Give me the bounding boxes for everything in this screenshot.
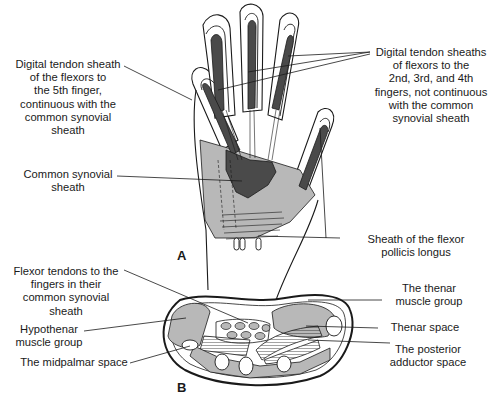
label-flexor-pollicis-longus-sheath: Sheath of the flexor pollicis longus [356, 233, 476, 259]
label-thenar-space: Thenar space [380, 321, 470, 334]
label-hypothenar-muscle-group: Hypothenar muscle group [10, 323, 88, 349]
label-common-synovial-sheath: Common synovial sheath [18, 168, 118, 194]
label-flexor-tendons: Flexor tendons to the fingers in their c… [6, 265, 126, 318]
label-midpalmar-space: The midpalmar space [14, 356, 134, 369]
label-digital-sheath-5th-finger: Digital tendon sheath of the flexors to … [8, 58, 128, 137]
panel-label-b: B [177, 380, 186, 395]
label-thenar-muscle-group: The thenar muscle group [384, 282, 474, 308]
panel-label-a: A [177, 248, 186, 263]
label-posterior-adductor-space: The posterior adductor space [378, 343, 478, 369]
label-digital-sheaths-2nd-4th-fingers: Digital tendon sheaths of flexors to the… [370, 46, 492, 125]
